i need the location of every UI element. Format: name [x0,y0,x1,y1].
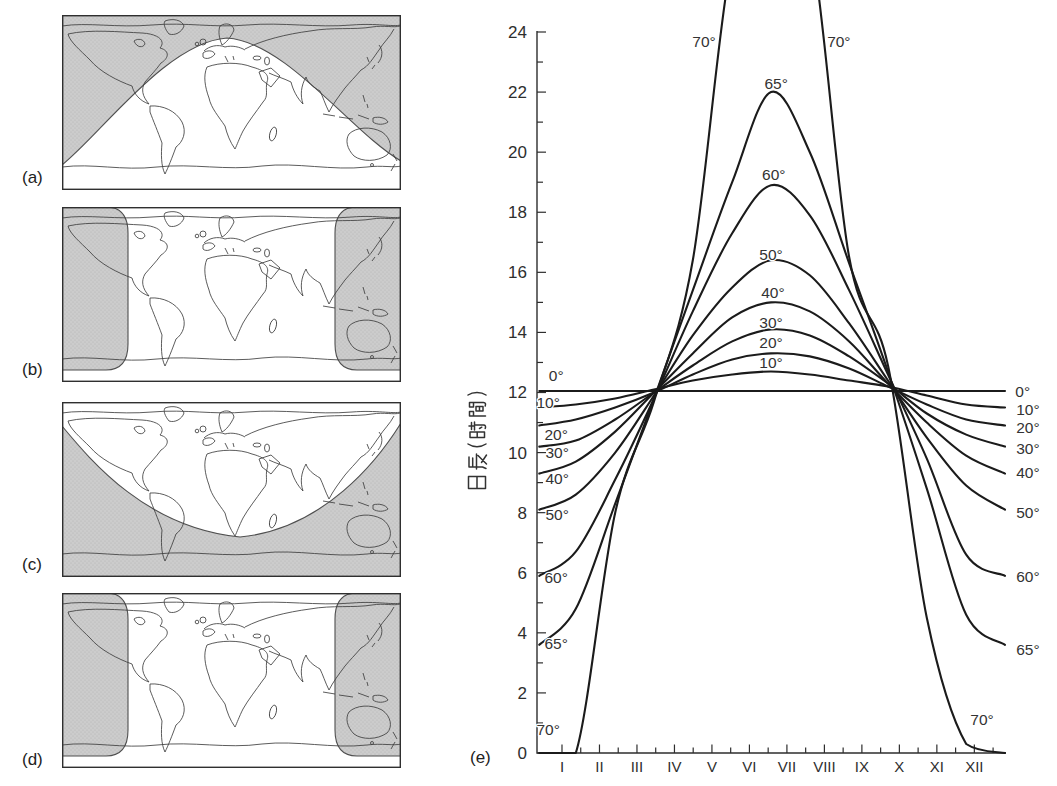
close-paren [468,392,486,395]
textbook-figure: (a) (b) (c) (d) (e) 02468101214161820222… [0,0,1057,786]
night-region-b-left [62,207,128,370]
x-tick-label: IX [855,758,869,775]
y-tick-label: 4 [518,624,527,643]
curve-label-right: 30° [1016,440,1039,457]
curve-label-peak: 60° [762,166,785,183]
kanji-interval [470,403,486,417]
curve-label-peak: 20° [759,334,782,351]
day-length-chart: 024681012141618202224IIIIIIIVVVIVIIVIIII… [440,0,1057,786]
x-tick-label: III [631,758,644,775]
x-tick-label: IV [667,758,681,775]
curve-label-left: 70° [537,721,560,738]
x-tick-label: I [560,758,564,775]
curve-label-right: 65° [1016,641,1039,658]
curve-label-left: 65° [544,635,567,652]
curve-label-peak: 10° [759,354,782,371]
night-region-b-right [335,207,401,370]
y-tick-label: 2 [518,684,527,703]
y-tick-label: 8 [518,504,527,523]
panel-label-b: (b) [22,360,43,380]
curve-label-right: 50° [1016,504,1039,521]
curve-label-left: 0° [549,367,564,384]
y-tick-label: 10 [508,444,527,463]
curve-label-peak: 65° [764,75,787,92]
y-tick-label: 20 [508,143,527,162]
curve-label-left: 40° [545,470,568,487]
y-axis-title [468,392,487,488]
y-tick-label: 22 [508,83,527,102]
curve-label-peak: 70° [827,33,850,50]
panel-label-d: (d) [22,750,43,770]
y-tick-label: 18 [508,203,527,222]
map-panel-b [62,207,401,382]
panel-label-c: (c) [22,555,42,575]
y-tick-label: 0 [518,744,527,763]
curve-label-left: 50° [545,506,568,523]
panel-label-a: (a) [22,168,43,188]
chart-curve-labels: 0°10°20°30°40°50°60°65°70°70°70°65°60°50… [537,33,1040,739]
night-region-d-left [62,593,128,756]
curve-label-right: 70° [970,711,993,728]
curve-label-peak: 70° [692,33,715,50]
x-tick-label: X [894,758,904,775]
curve-10deg [539,372,1005,408]
curve-label-left: 30° [545,444,568,461]
x-tick-label: XI [930,758,944,775]
curve-70deg [539,0,1005,753]
y-tick-label: 14 [508,323,527,342]
curve-label-peak: 50° [759,246,782,263]
chart-axes: 024681012141618202224IIIIIIIVVVIVIIVIIII… [508,23,1006,775]
curve-label-left: 60° [544,569,567,586]
map-panel-d [62,593,401,768]
x-tick-label: XII [965,758,983,775]
map-panel-c [62,402,401,577]
kanji-long [469,454,487,469]
open-paren [468,444,486,447]
curve-label-right: 60° [1016,568,1039,585]
curve-label-left: 10° [537,394,560,411]
x-tick-label: VIII [813,758,836,775]
night-region-d-right [335,593,401,756]
kanji-day [469,477,486,489]
kanji-time [469,422,486,438]
x-tick-label: VI [742,758,756,775]
curve-label-right: 10° [1016,401,1039,418]
x-tick-label: II [595,758,603,775]
y-tick-label: 12 [508,383,527,402]
y-tick-label: 24 [508,23,527,42]
curve-label-right: 20° [1016,419,1039,436]
curve-label-peak: 40° [761,284,784,301]
chart-curves [539,0,1005,753]
curve-label-right: 0° [1015,383,1030,400]
curve-label-left: 20° [544,426,567,443]
y-tick-label: 6 [518,564,527,583]
y-tick-label: 16 [508,263,527,282]
x-tick-label: VII [778,758,796,775]
curve-label-right: 40° [1016,464,1039,481]
map-panel-a [62,15,401,190]
curve-label-peak: 30° [759,314,782,331]
x-tick-label: V [707,758,717,775]
